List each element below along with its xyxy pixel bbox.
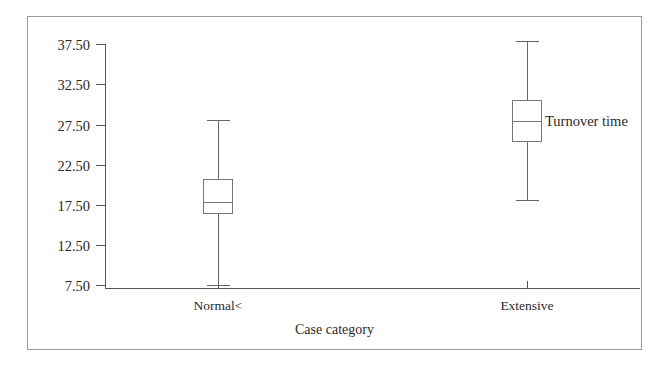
whisker-lower xyxy=(527,142,528,200)
series-label-turnover-time: Turnover time xyxy=(545,113,628,130)
median-line xyxy=(512,121,542,122)
y-axis-tick: 22.50 xyxy=(96,165,105,166)
x-axis-tick xyxy=(527,281,528,289)
y-axis-tick: 12.50 xyxy=(96,245,105,246)
whisker-upper xyxy=(527,41,528,100)
x-axis-title: Case category xyxy=(0,322,669,338)
box-iqr xyxy=(203,179,233,214)
whisker-cap-lower xyxy=(516,200,539,201)
x-axis-tick-label-normal: Normal< xyxy=(194,299,243,313)
whisker-lower xyxy=(218,214,219,285)
y-axis-tick-label: 22.50 xyxy=(57,158,90,173)
box-plot-figure: 37.50 32.50 27.50 22.50 17.50 12.50 7.50… xyxy=(0,0,669,370)
y-axis-tick: 27.50 xyxy=(96,125,105,126)
y-axis-tick-label: 12.50 xyxy=(57,238,90,253)
y-axis-line xyxy=(105,44,106,289)
y-axis-tick-label: 27.50 xyxy=(57,118,90,133)
median-line xyxy=(203,202,233,203)
x-axis-line xyxy=(105,288,640,289)
y-axis-tick: 7.50 xyxy=(96,285,105,286)
whisker-upper xyxy=(218,120,219,179)
y-axis-tick-label: 17.50 xyxy=(57,198,90,213)
y-axis-tick: 37.50 xyxy=(96,44,105,45)
y-axis-tick-label: 32.50 xyxy=(57,77,90,92)
whisker-cap-lower xyxy=(207,285,230,286)
y-axis-tick-label: 37.50 xyxy=(57,37,90,52)
y-axis-tick-label: 7.50 xyxy=(65,278,90,293)
x-axis-tick-label-extensive: Extensive xyxy=(500,299,553,313)
y-axis-tick: 17.50 xyxy=(96,205,105,206)
y-axis-tick: 32.50 xyxy=(96,84,105,85)
